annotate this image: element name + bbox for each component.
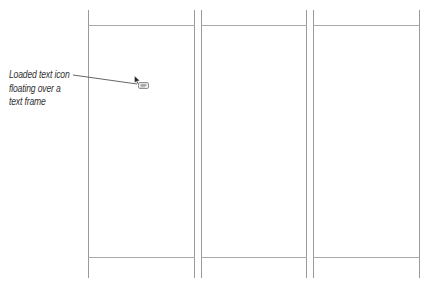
loaded-text-icon	[139, 83, 149, 89]
callout-overlay	[0, 0, 430, 282]
leader-line	[73, 75, 137, 84]
